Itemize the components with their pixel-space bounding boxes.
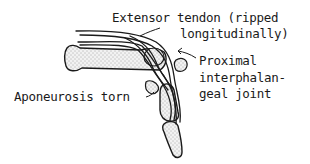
label-extensor-tendon-2: longitudinally)	[180, 26, 288, 41]
label-pip-joint-1: Proximal	[199, 53, 257, 68]
finger-anatomy-diagram: Extensor tendon (ripped longitudinally) …	[0, 0, 310, 164]
leader-pip-joint	[178, 51, 196, 58]
label-pip-joint-2: interphalan-	[199, 70, 286, 85]
label-pip-joint-3: geal joint	[199, 86, 271, 101]
label-extensor-tendon-1: Extensor tendon (ripped	[112, 10, 278, 25]
label-aponeurosis-torn: Aponeurosis torn	[14, 89, 130, 104]
leader-extensor-tendon	[140, 28, 160, 36]
distal-phalanx-bone	[163, 122, 183, 158]
bone-fragment-right	[175, 58, 188, 71]
aponeurosis-fragment	[145, 81, 158, 94]
